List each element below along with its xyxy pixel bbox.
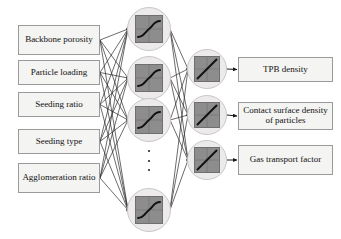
sigmoid-curve-icon xyxy=(135,106,163,134)
output-node-2[interactable] xyxy=(187,95,227,135)
output-label: Gas transport factor xyxy=(250,155,321,165)
input-label: Backbone porosity xyxy=(25,35,93,45)
ellipsis-dot xyxy=(148,169,150,171)
hidden-node-2[interactable] xyxy=(127,56,171,100)
linear-line-icon xyxy=(194,147,220,173)
sigmoid-curve-icon xyxy=(135,15,163,43)
sigmoid-curve-icon xyxy=(135,64,163,92)
linear-line-icon xyxy=(194,102,220,128)
output-box-tpb-density[interactable]: TPB density xyxy=(238,57,333,82)
input-box-seeding-ratio[interactable]: Seeding ratio xyxy=(18,92,100,117)
hidden-node-n[interactable] xyxy=(127,188,171,232)
neural-network-diagram: Backbone porosity Particle loading Seedi… xyxy=(0,0,341,239)
input-box-backbone-porosity[interactable]: Backbone porosity xyxy=(18,25,100,55)
edges-hidden-to-output xyxy=(170,29,188,210)
output-box-contact-surface-density[interactable]: Contact surface density of particles xyxy=(238,102,333,130)
input-box-particle-loading[interactable]: Particle loading xyxy=(18,60,100,85)
input-label: Agglomeration ratio xyxy=(22,173,95,183)
output-node-3[interactable] xyxy=(187,140,227,180)
linear-line-icon xyxy=(194,56,220,82)
output-node-1[interactable] xyxy=(187,49,227,89)
input-box-seeding-type[interactable]: Seeding type xyxy=(18,129,100,154)
sigmoid-curve-icon xyxy=(135,196,163,224)
input-label: Seeding type xyxy=(36,137,83,147)
hidden-layer-ellipsis-icon xyxy=(147,150,151,171)
input-label: Particle loading xyxy=(31,68,88,78)
input-label: Seeding ratio xyxy=(35,100,83,110)
hidden-node-3[interactable] xyxy=(127,98,171,142)
edges-output-to-result xyxy=(227,69,237,160)
edges-input-to-hidden xyxy=(100,29,128,210)
hidden-node-1[interactable] xyxy=(127,7,171,51)
input-box-agglomeration-ratio[interactable]: Agglomeration ratio xyxy=(18,163,100,193)
ellipsis-dot xyxy=(148,160,150,162)
output-label: Contact surface density of particles xyxy=(241,106,330,125)
output-box-gas-transport-factor[interactable]: Gas transport factor xyxy=(238,145,333,175)
ellipsis-dot xyxy=(148,150,150,152)
output-label: TPB density xyxy=(263,65,308,75)
